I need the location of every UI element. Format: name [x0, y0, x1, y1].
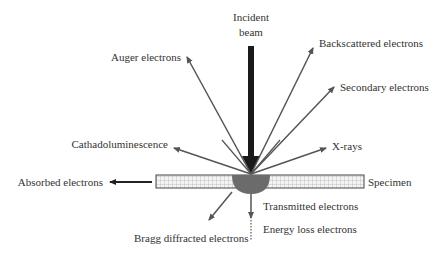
cathodoluminescence-label: Cathadoluminescence	[71, 138, 168, 150]
secondary-arrow	[251, 87, 334, 174]
secondary-label: Secondary electrons	[340, 81, 429, 93]
incident-beam-label-line2: beam	[239, 26, 263, 38]
specimen-label: Specimen	[368, 176, 412, 188]
incident-beam-label-line1: Incident	[233, 11, 269, 23]
xrays-label: X-rays	[332, 140, 362, 152]
auger-arrow	[187, 57, 251, 174]
bragg-label: Bragg diffracted electrons	[134, 232, 249, 244]
incident-beam-arrow	[242, 46, 260, 174]
interaction-volume	[232, 175, 270, 194]
backscattered-label: Backscattered electrons	[319, 37, 423, 49]
bragg-arrow	[209, 192, 232, 220]
transmitted-label: Transmitted electrons	[263, 200, 358, 212]
energy-loss-label: Energy loss electrons	[263, 223, 357, 235]
absorbed-label: Absorbed electrons	[18, 176, 103, 188]
electron-interaction-diagram: Incident beam Auger electrons Backscatte…	[0, 0, 448, 253]
auger-label: Auger electrons	[111, 51, 181, 63]
